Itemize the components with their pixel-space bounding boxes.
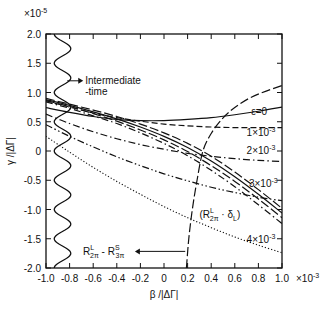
annotation-exp: -3 [269,144,275,151]
x-tick-label: -0.2 [132,273,150,284]
x-tick-label: -0.6 [85,273,103,284]
y-tick-label: 0 [35,146,41,157]
x-tick-label: 0.8 [251,273,265,284]
annotation-r2pi-minus-r3pi: RL2π - RS3π [83,244,125,259]
annotation-exp: -3 [271,177,277,184]
annotation-r2pi-delta: (RL2π · δL) [199,207,240,222]
annotation-exp: -3 [269,126,275,133]
annotation-epsilon-label: 2×10-3 [247,144,276,156]
arrow-right-icon [78,78,83,84]
x-multiplier-exp: -3 [313,272,319,279]
annotation-exp: -3 [269,233,275,240]
y-multiplier-exp: -5 [41,7,47,14]
x-tick-label: -0.8 [61,273,79,284]
annotation-epsilon-label: 1×10-3 [247,126,276,138]
chart: -1.0-0.8-0.6-0.4-0.200.20.40.60.81.02.01… [0,0,329,316]
x-tick-label: 1.0 [275,273,289,284]
annotation-intermediate-time: Intermediate [85,75,141,86]
y-axis-label: γ /|ΔΓ| [5,137,16,165]
series-line-0 [46,107,282,121]
annotation-epsilon-label: 4×10-3 [247,233,276,245]
y-tick-label: 1.5 [27,58,41,69]
y-tick-label: -2.0 [24,263,42,274]
annotation-intermediate-time-line2: -time [85,86,108,97]
y-multiplier: ×10-5 [24,7,47,19]
y-tick-label: 2.0 [27,29,41,40]
annotation-epsilon-label: ε=0 [251,106,267,117]
x-multiplier: ×10-3 [296,272,319,284]
y-tick-label: 0.5 [27,117,41,128]
arrow-left-icon [135,248,140,254]
x-tick-label: 0.6 [228,273,242,284]
annotation-epsilon-label: 3×10-3 [249,177,278,189]
y-tick-label: -1.5 [24,234,42,245]
x-tick-label: -0.4 [108,273,126,284]
y-tick-label: -0.5 [24,175,42,186]
x-tick-label: 0.2 [181,273,195,284]
x-tick-label: 0 [161,273,167,284]
y-tick-label: -1.0 [24,205,42,216]
x-axis-label: β /|ΔΓ| [150,289,179,300]
y-tick-label: 1.0 [27,88,41,99]
x-tick-label: -1.0 [37,273,55,284]
x-tick-label: 0.4 [204,273,218,284]
